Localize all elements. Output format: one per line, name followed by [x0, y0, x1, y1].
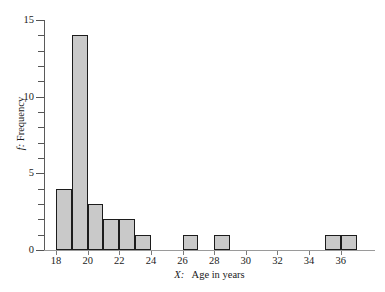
- y-tick-major: [36, 173, 44, 174]
- x-tick-label: 34: [295, 255, 323, 267]
- histogram-bar: [119, 219, 135, 250]
- histogram-bar: [72, 35, 88, 250]
- y-tick-minor: [38, 235, 44, 236]
- x-tick-label: 26: [169, 255, 197, 267]
- x-tick-label: 30: [232, 255, 260, 267]
- x-tick-label: 36: [327, 255, 355, 267]
- y-tick-major: [36, 20, 44, 21]
- x-tick-label: 22: [105, 255, 133, 267]
- x-tick-label: 32: [263, 255, 291, 267]
- histogram-bar: [214, 235, 230, 250]
- histogram-bar: [56, 189, 72, 250]
- histogram-bar: [341, 235, 357, 250]
- histogram-bar: [183, 235, 199, 250]
- y-tick-major: [36, 97, 44, 98]
- histogram-bar: [88, 204, 104, 250]
- histogram-bar: [325, 235, 341, 250]
- y-tick-minor: [38, 189, 44, 190]
- x-tick-label: 20: [74, 255, 102, 267]
- y-tick-minor: [38, 35, 44, 36]
- x-axis-line: [44, 250, 375, 251]
- x-tick-label: 24: [137, 255, 165, 267]
- x-tick-label: 28: [200, 255, 228, 267]
- plot-area: 051015 18202224262830323436 f: Frequency…: [0, 0, 385, 292]
- y-tick-major: [36, 250, 44, 251]
- y-tick-minor: [38, 51, 44, 52]
- y-tick-label: 0: [4, 245, 34, 256]
- y-tick-minor: [38, 127, 44, 128]
- y-tick-minor: [38, 112, 44, 113]
- y-tick-minor: [38, 143, 44, 144]
- y-axis-line: [44, 20, 45, 251]
- x-tick-label: 18: [42, 255, 70, 267]
- x-axis-title-symbol: X:: [174, 269, 184, 280]
- histogram-figure: 051015 18202224262830323436 f: Frequency…: [0, 0, 385, 292]
- y-tick-minor: [38, 66, 44, 67]
- x-axis-title: X: Age in years: [44, 269, 375, 281]
- histogram-bar: [103, 219, 119, 250]
- y-tick-label: 15: [4, 15, 34, 26]
- x-axis-title-text: Age in years: [184, 269, 244, 280]
- y-axis-title-symbol: f:: [15, 144, 26, 150]
- y-tick-minor: [38, 204, 44, 205]
- y-axis-title: f: Frequency: [15, 64, 26, 184]
- y-axis-title-text: Frequency: [15, 97, 26, 144]
- y-tick-minor: [38, 219, 44, 220]
- y-tick-minor: [38, 158, 44, 159]
- histogram-bar: [135, 235, 151, 250]
- y-tick-minor: [38, 81, 44, 82]
